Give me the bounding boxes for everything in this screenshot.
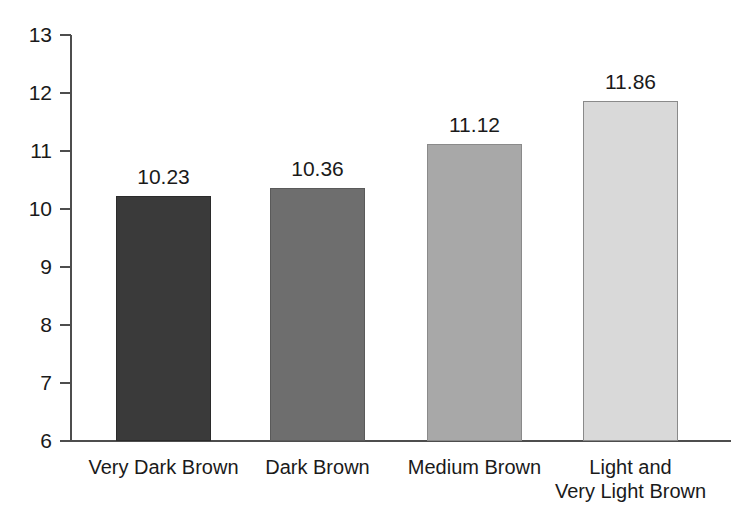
y-axis-tick-label: 12 [0,82,52,103]
y-axis-tick-label: 7 [0,372,52,393]
y-axis-tick-label: 10 [0,198,52,219]
y-axis-tick-label: 8 [0,314,52,335]
bar-2[interactable] [270,188,365,441]
x-axis-category-label-4: Light andVery Light Brown [533,455,728,503]
category-label-line: Light and [533,455,728,479]
bar-value-label-3: 11.12 [402,114,547,135]
bar-value-label-4: 11.86 [558,71,703,92]
y-axis-tick-label: 13 [0,24,52,45]
y-axis-tick-mark [60,382,71,384]
y-axis-tick-label: 9 [0,256,52,277]
bar-4[interactable] [583,101,678,441]
bar-3[interactable] [427,144,522,441]
y-axis-tick-label: 6 [0,430,52,451]
bar-chart: 678910111213 10.23Very Dark Brown10.36Da… [0,0,755,515]
category-label-line: Very Light Brown [533,479,728,503]
y-axis-tick-mark [60,208,71,210]
bar-value-label-2: 10.36 [245,158,390,179]
bar-value-label-1: 10.23 [91,166,236,187]
y-axis-tick-label: 11 [0,140,52,161]
y-axis-tick-mark [60,440,71,442]
bar-1[interactable] [116,196,211,441]
y-axis-tick-mark [60,266,71,268]
y-axis-tick-mark [60,324,71,326]
y-axis-tick-mark [60,92,71,94]
y-axis-line [70,35,72,442]
y-axis-tick-mark [60,150,71,152]
y-axis-tick-mark [60,34,71,36]
